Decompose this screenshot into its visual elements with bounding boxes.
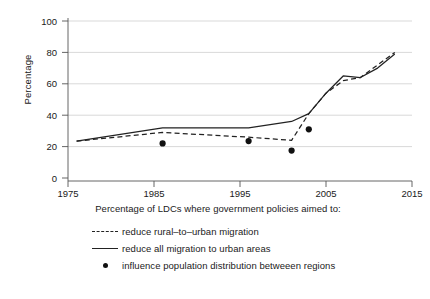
- y-tick-label-20: 20: [46, 141, 57, 152]
- legend-label-dashed: reduce rural–to–urban migration: [122, 226, 259, 237]
- y-tick-label-100: 100: [41, 16, 57, 27]
- dashed-line-key: [88, 231, 122, 232]
- legend-title: Percentage of LDCs where government poli…: [0, 203, 430, 214]
- solid-series-line: [77, 54, 395, 141]
- data-series-layer: [77, 52, 395, 153]
- x-axis-tick-labels: 1975 1985 1995 2005 2015: [57, 188, 422, 199]
- y-axis-tick-labels: 100 80 60 40 20 0: [41, 16, 57, 184]
- y-axis-ticks: [62, 21, 68, 178]
- data-point: [160, 140, 166, 146]
- x-tick-label-1975: 1975: [57, 188, 78, 199]
- x-tick-label-2005: 2005: [315, 188, 336, 199]
- y-tick-label-80: 80: [46, 47, 57, 58]
- data-point: [246, 138, 252, 144]
- data-point: [289, 147, 295, 153]
- data-point: [306, 126, 312, 132]
- legend-label-points: influence population distribution betwee…: [122, 260, 335, 271]
- series-2: [77, 54, 395, 141]
- legend-items: reduce rural–to–urban migration reduce a…: [0, 223, 430, 274]
- x-axis-ticks: [68, 181, 412, 187]
- x-tick-label-2015: 2015: [401, 188, 422, 199]
- series-3: [160, 126, 312, 153]
- legend-item-points: influence population distribution betwee…: [88, 257, 430, 274]
- plot-area: Percentage: [0, 0, 430, 200]
- x-tick-label-1995: 1995: [229, 188, 250, 199]
- y-axis-title: Percentage: [22, 35, 33, 125]
- y-tick-label-0: 0: [52, 173, 57, 184]
- y-tick-label-60: 60: [46, 78, 57, 89]
- dot-marker-key: [88, 263, 122, 268]
- chart-legend: Percentage of LDCs where government poli…: [0, 203, 430, 274]
- y-tick-label-40: 40: [46, 110, 57, 121]
- legend-item-solid: reduce all migration to urban areas: [88, 240, 430, 257]
- chart-figure: Percentage: [0, 0, 430, 299]
- legend-label-solid: reduce all migration to urban areas: [122, 243, 271, 254]
- axis-spines: [68, 18, 412, 181]
- x-tick-label-1985: 1985: [143, 188, 164, 199]
- chart-svg: 100 80 60 40 20 0 1975 1985 1995 2005: [0, 0, 430, 200]
- solid-line-key: [88, 248, 122, 249]
- legend-item-dashed: reduce rural–to–urban migration: [88, 223, 430, 240]
